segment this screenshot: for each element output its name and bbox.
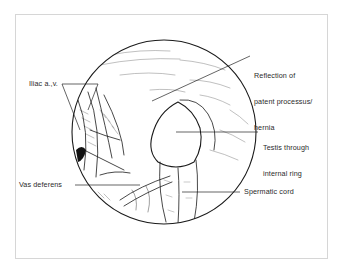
- label-reflection-line-1: Reflection of: [254, 72, 312, 81]
- label-iliac: Iliac a.,v.: [29, 80, 58, 89]
- ring-edge: [180, 100, 215, 150]
- testis-outline: [151, 102, 201, 167]
- iliac-vessels: [78, 88, 130, 177]
- label-testis-line-2: internal ring: [263, 170, 309, 179]
- dark-shadow: [76, 147, 86, 162]
- label-spermatic-cord: Spermatic cord: [244, 188, 294, 197]
- leader-iliac-a: [62, 84, 80, 130]
- vas-deferens-outline: [120, 176, 172, 206]
- label-testis: Testis through internal ring: [263, 127, 309, 187]
- label-testis-line-1: Testis through: [263, 144, 309, 153]
- label-vas-deferens: Vas deferens: [19, 181, 62, 190]
- label-reflection-line-2: patent processus/: [254, 98, 312, 107]
